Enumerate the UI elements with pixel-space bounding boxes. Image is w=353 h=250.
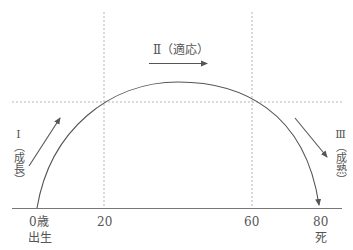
stage-3-arrow xyxy=(295,118,327,157)
tick-label-60: 60 xyxy=(244,216,259,228)
stage-1-arrow xyxy=(29,118,60,166)
tick-label-20: 20 xyxy=(97,216,112,228)
stage-3-label: Ⅲ（成熟） xyxy=(334,128,347,185)
tick-label-death: 死 xyxy=(315,232,327,244)
stage-2-label: Ⅱ（適応） xyxy=(153,44,209,56)
tick-label-birth-age: 0歳 xyxy=(29,216,49,228)
tick-label-80: 80 xyxy=(313,216,328,228)
stage-1-label: Ⅰ（成長） xyxy=(12,128,25,185)
life-arc-diagram xyxy=(0,0,353,250)
tick-label-birth: 出生 xyxy=(28,232,52,244)
life-arc-curve xyxy=(37,82,319,208)
